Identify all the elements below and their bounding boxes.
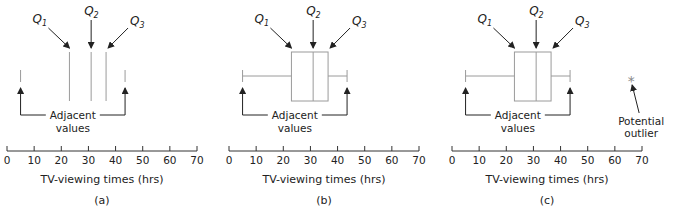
x-tick-label: 50: [581, 154, 594, 166]
x-tick-label: 0: [226, 154, 233, 166]
box: [291, 52, 328, 101]
x-tick-label: 70: [190, 154, 203, 166]
outlier-label-2: outlier: [624, 127, 658, 139]
x-tick-label: 0: [4, 154, 11, 166]
adjacent-label: Adjacent: [50, 109, 96, 121]
panel-c: Q1Q2Q3Adjacentvalues*Potentialoutlier010…: [449, 4, 664, 207]
box: [514, 52, 551, 101]
panel-a: Q1Q2Q3Adjacentvalues010203040506070TV-vi…: [4, 4, 204, 207]
x-tick-label: 10: [249, 154, 262, 166]
q1-arrow-icon: [493, 28, 514, 48]
x-tick-label: 60: [608, 154, 621, 166]
adjacent-label-2: values: [56, 122, 90, 134]
q1-label: Q1: [477, 12, 492, 28]
x-tick-label: 50: [358, 154, 371, 166]
adjacent-label: Adjacent: [495, 109, 541, 121]
q2-label: Q2: [529, 4, 544, 20]
x-tick-label: 10: [472, 154, 485, 166]
x-tick-label: 0: [449, 154, 456, 166]
x-tick-label: 50: [136, 154, 149, 166]
outlier-marker: *: [628, 73, 635, 89]
x-tick-label: 40: [331, 154, 344, 166]
x-tick-label: 20: [500, 154, 513, 166]
q3-arrow-icon: [108, 28, 128, 48]
x-axis-title: TV-viewing times (hrs): [485, 173, 609, 186]
x-tick-label: 40: [109, 154, 122, 166]
x-axis-title: TV-viewing times (hrs): [40, 173, 164, 186]
x-tick-label: 60: [163, 154, 176, 166]
x-tick-label: 40: [554, 154, 567, 166]
q3-label: Q3: [575, 14, 590, 30]
x-tick-label: 70: [635, 154, 648, 166]
q2-label: Q2: [84, 4, 99, 20]
q1-label: Q1: [32, 12, 47, 28]
q2-label: Q2: [306, 4, 321, 20]
x-tick-label: 10: [27, 154, 40, 166]
q3-arrow-icon: [553, 28, 573, 48]
q3-label: Q3: [352, 14, 367, 30]
adjacent-label: Adjacent: [272, 109, 318, 121]
x-tick-label: 20: [277, 154, 290, 166]
x-tick-label: 60: [385, 154, 398, 166]
x-tick-label: 30: [527, 154, 540, 166]
q1-arrow-icon: [270, 28, 291, 48]
adjacent-label-2: values: [501, 122, 535, 134]
boxplot-diagram: Q1Q2Q3Adjacentvalues010203040506070TV-vi…: [0, 0, 677, 218]
panel-b: Q1Q2Q3Adjacentvalues010203040506070TV-vi…: [226, 4, 426, 207]
outlier-label: Potential: [618, 115, 664, 127]
x-tick-label: 70: [412, 154, 425, 166]
outlier-arrow-icon: [632, 85, 639, 113]
x-tick-label: 20: [55, 154, 68, 166]
q1-label: Q1: [254, 12, 269, 28]
adjacent-label-2: values: [278, 122, 312, 134]
x-axis-title: TV-viewing times (hrs): [262, 173, 386, 186]
x-tick-label: 30: [304, 154, 317, 166]
q3-arrow-icon: [330, 28, 350, 48]
x-tick-label: 30: [82, 154, 95, 166]
panel-caption: (a): [94, 194, 109, 207]
q3-label: Q3: [130, 14, 145, 30]
panel-caption: (b): [316, 194, 332, 207]
panel-caption: (c): [540, 194, 555, 207]
q1-arrow-icon: [48, 28, 69, 48]
